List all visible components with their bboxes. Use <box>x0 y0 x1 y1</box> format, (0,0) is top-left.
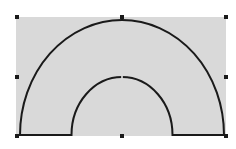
resize-handle-top-right[interactable] <box>224 15 228 19</box>
drawing-canvas[interactable] <box>0 0 236 149</box>
resize-handle-middle-left[interactable] <box>15 75 19 79</box>
resize-handle-top-left[interactable] <box>15 15 19 19</box>
adjust-handle[interactable] <box>121 76 123 78</box>
resize-handle-bottom-middle[interactable] <box>120 134 124 138</box>
resize-handle-bottom-right[interactable] <box>224 134 228 138</box>
resize-handle-middle-right[interactable] <box>224 75 228 79</box>
resize-handle-bottom-left[interactable] <box>15 134 19 138</box>
resize-handle-top-middle[interactable] <box>120 15 124 19</box>
